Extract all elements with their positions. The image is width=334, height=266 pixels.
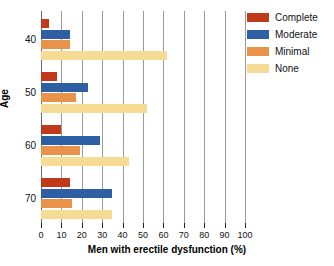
- bar-moderate-age-50: [41, 83, 88, 92]
- legend-label: None: [275, 63, 299, 74]
- legend: CompleteModerateMinimalNone: [247, 9, 332, 77]
- bar-none-age-50: [41, 104, 147, 113]
- bar-minimal-age-70: [41, 199, 72, 208]
- bar-minimal-age-40: [41, 40, 70, 49]
- gridline: [225, 11, 226, 223]
- x-tick-label: 100: [230, 230, 260, 240]
- y-tick-label: 60: [0, 140, 36, 151]
- gridline: [204, 11, 205, 223]
- x-axis-tick: [143, 223, 144, 228]
- bar-none-age-70: [41, 210, 112, 219]
- gridline: [123, 11, 124, 223]
- gridline: [143, 11, 144, 223]
- bar-none-age-40: [41, 51, 167, 60]
- bar-moderate-age-60: [41, 136, 100, 145]
- legend-swatch-none: [247, 64, 269, 73]
- bar-none-age-60: [41, 157, 129, 166]
- gridline: [184, 11, 185, 223]
- legend-label: Complete: [275, 12, 318, 23]
- legend-swatch-moderate: [247, 30, 269, 39]
- legend-item-moderate[interactable]: Moderate: [247, 26, 332, 43]
- x-axis-tick: [123, 223, 124, 228]
- x-axis-ticks: [41, 223, 245, 230]
- x-axis-tick: [184, 223, 185, 228]
- y-tick-label: 40: [0, 34, 36, 45]
- legend-swatch-complete: [247, 13, 269, 22]
- bar-complete-age-60: [41, 125, 61, 134]
- x-axis-tick: [102, 223, 103, 228]
- x-axis-tick: [41, 223, 42, 228]
- bar-complete-age-40: [41, 19, 49, 28]
- legend-item-minimal[interactable]: Minimal: [247, 43, 332, 60]
- x-axis-tick: [204, 223, 205, 228]
- y-tick-label: 70: [0, 193, 36, 204]
- y-axis-title: Age: [0, 89, 10, 108]
- bar-complete-age-70: [41, 178, 70, 187]
- legend-label: Minimal: [275, 46, 309, 57]
- legend-swatch-minimal: [247, 47, 269, 56]
- x-axis-tick: [163, 223, 164, 228]
- gridline: [245, 11, 246, 223]
- bar-moderate-age-40: [41, 30, 70, 39]
- legend-item-complete[interactable]: Complete: [247, 9, 332, 26]
- x-axis-tick: [225, 223, 226, 228]
- x-axis-tick: [82, 223, 83, 228]
- bar-moderate-age-70: [41, 189, 112, 198]
- x-axis-title: Men with erectile dysfunction (%): [0, 244, 334, 255]
- legend-item-none[interactable]: None: [247, 60, 332, 77]
- legend-label: Moderate: [275, 29, 317, 40]
- gridline: [163, 11, 164, 223]
- chart-container: 0102030405060708090100 Men with erectile…: [0, 0, 334, 266]
- x-axis-tick: [61, 223, 62, 228]
- x-axis-tick: [245, 223, 246, 228]
- bar-minimal-age-50: [41, 93, 76, 102]
- bar-complete-age-50: [41, 72, 57, 81]
- plot-area: [41, 11, 245, 223]
- bar-minimal-age-60: [41, 146, 80, 155]
